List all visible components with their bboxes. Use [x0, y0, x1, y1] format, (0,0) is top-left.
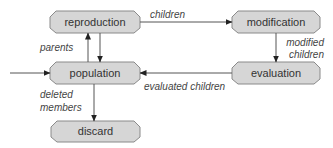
edge-modified-children-label-line2: children: [280, 49, 324, 61]
node-discard: [51, 121, 140, 142]
evolutionary-cycle-diagram: reproduction modification population eva…: [0, 0, 333, 148]
edge-parents-label: parents: [40, 42, 73, 54]
node-reproduction: [50, 11, 140, 33]
diagram-canvas: [0, 0, 333, 148]
edge-deleted-members-label-line2: members: [40, 102, 82, 114]
edge-evaluated-children-label: evaluated children: [144, 81, 225, 93]
edge-children-label: children: [150, 9, 185, 21]
node-population: [50, 62, 140, 84]
node-evaluation: [232, 62, 320, 84]
node-modification: [232, 11, 320, 33]
edge-modified-children-label-line1: modified: [280, 37, 324, 49]
edge-deleted-members-label-line1: deleted: [40, 89, 73, 101]
